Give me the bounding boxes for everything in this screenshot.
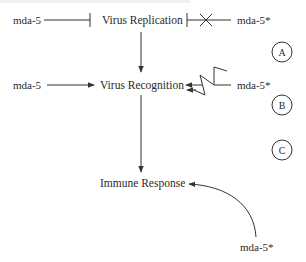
agent-mda5-b: mda-5 <box>13 79 42 91</box>
panel-label-b: B <box>279 100 286 111</box>
agent-mda5star-a: mda-5* <box>237 14 271 26</box>
panel-label-c: C <box>279 145 286 156</box>
zigzag-disruption-icon <box>194 67 227 95</box>
node-virus-recognition: Virus Recognition <box>100 79 184 92</box>
diagram-canvas: mda-5 Virus Replication mda-5* A mda-5 V… <box>0 0 306 262</box>
curved-activation-edge-mda5star-c <box>189 184 256 237</box>
panel-label-a: A <box>278 47 286 58</box>
node-virus-replication: Virus Replication <box>102 14 183 27</box>
node-immune-response: Immune Response <box>100 177 185 190</box>
agent-mda5-a: mda-5 <box>13 14 42 26</box>
diagram-svg: mda-5 Virus Replication mda-5* A mda-5 V… <box>0 0 306 262</box>
agent-mda5star-b: mda-5* <box>237 79 271 91</box>
agent-mda5star-c: mda-5* <box>240 241 274 253</box>
